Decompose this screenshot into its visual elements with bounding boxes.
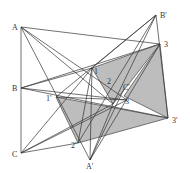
label-Cp: C' (123, 83, 130, 92)
label-1p: 1' (46, 94, 52, 103)
label-C: C (12, 150, 17, 159)
label-3p: 3' (172, 116, 178, 125)
label-A: A (12, 23, 18, 32)
desargues-diagram: A B C B' 3 3' A' 2' 1' 1 2 C' 3 (0, 0, 190, 173)
label-1: 1 (94, 67, 98, 76)
label-2: 2 (107, 77, 111, 86)
label-3: 3 (164, 40, 168, 49)
label-3b: 3 (125, 97, 129, 106)
label-B: B (12, 84, 17, 93)
line-B-1 (21, 68, 92, 88)
label-2p: 2' (71, 141, 77, 150)
label-Bp: B' (160, 11, 167, 20)
label-Ap: A' (86, 162, 94, 171)
line-C-2p (21, 143, 78, 153)
